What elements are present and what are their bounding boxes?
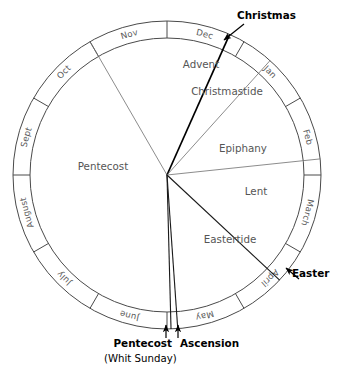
month-tick-july [90, 294, 99, 309]
whit-sunday-callout-sublabel: (Whit Sunday) [104, 353, 177, 364]
month-label-text-july: July [54, 269, 73, 288]
month-label-nov: Nov [119, 27, 138, 41]
season-label-christmastide: Christmastide [191, 85, 263, 97]
month-label-text-may: May [195, 309, 215, 323]
month-label-june: June [118, 308, 140, 323]
month-label-text-dec: Dec [195, 27, 214, 41]
season-label-eastertide: Eastertide [204, 233, 257, 245]
pentecost-callout-label: Pentecost [113, 337, 172, 349]
month-tick-may [236, 294, 245, 309]
callout-arrow-group [166, 24, 299, 338]
season-boundary-epiphany-start [167, 61, 270, 175]
season-label-epiphany: Epiphany [219, 142, 267, 154]
month-label-sept: Sept [19, 125, 34, 148]
month-label-text-nov: Nov [119, 27, 138, 41]
month-tick-jan [236, 42, 245, 57]
season-label-pentecost: Pentecost [78, 160, 128, 172]
season-label-advent: Advent [183, 58, 219, 70]
ascension-callout-label: Ascension [180, 337, 239, 349]
callout-arrow-christmas [224, 24, 244, 40]
month-label-july: July [54, 269, 73, 288]
month-label-dec: Dec [195, 27, 214, 41]
season-label-lent: Lent [245, 185, 267, 197]
season-label-group: AdventChristmastideEpiphanyLentEastertid… [78, 58, 267, 245]
season-boundary-lent-start [167, 159, 320, 175]
easter-callout-label: Easter [292, 267, 330, 279]
month-tick-feb [286, 98, 301, 107]
month-tick-april [286, 244, 301, 253]
calendar-wheel-svg: DecJanFebMarchAprilMayJuneJulyAugustSept… [0, 0, 347, 374]
month-label-text-feb: Feb [301, 128, 315, 146]
liturgical-year-diagram: DecJanFebMarchAprilMayJuneJulyAugustSept… [0, 0, 347, 374]
christmas-callout-label: Christmas [237, 9, 296, 21]
month-label-text-june: June [118, 308, 140, 323]
season-boundary-group [90, 34, 320, 329]
month-tick-august [34, 244, 49, 253]
month-tick-oct [34, 98, 49, 107]
month-label-text-sept: Sept [19, 125, 34, 148]
month-label-feb: Feb [301, 128, 315, 146]
month-label-may: May [195, 309, 215, 323]
season-boundary-advent-start [90, 42, 167, 175]
